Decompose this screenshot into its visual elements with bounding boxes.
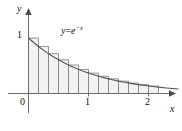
curve-equation-label: y=e−x xyxy=(61,25,83,36)
riemann-rectangle xyxy=(59,60,69,94)
y-axis-arrowhead xyxy=(25,8,31,15)
x-tick-label-2: 2 xyxy=(145,97,150,107)
x-tick-label-0: 0 xyxy=(20,97,25,107)
x-axis-arrowhead xyxy=(169,90,176,96)
y-tick-label-1: 1 xyxy=(17,30,22,40)
x-axis-label: x xyxy=(170,104,174,114)
riemann-rectangle xyxy=(49,54,59,94)
exponential-decay-riemann-sum-chart xyxy=(0,0,182,131)
y-axis-label: y xyxy=(17,4,21,14)
figure-container: y x 1 0 1 2 y=e−x xyxy=(0,0,182,131)
riemann-rectangle xyxy=(39,47,49,94)
equation-exponent: −x xyxy=(76,24,83,31)
x-tick-label-1: 1 xyxy=(85,97,90,107)
riemann-rectangle xyxy=(29,38,39,94)
